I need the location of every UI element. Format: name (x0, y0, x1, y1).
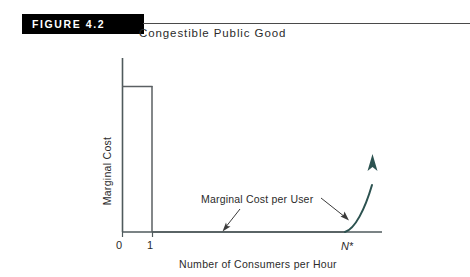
figure-header: FIGURE 4.2 Congestible Public Good (0, 0, 470, 46)
header-divider-rule (143, 23, 470, 24)
marginal-cost-per-user-label: Marginal Cost per User (201, 193, 314, 205)
x-tick-label-nstar: N* (341, 240, 354, 252)
x-tick-label-1: 1 (147, 239, 153, 251)
chart-plot-area: 0 1 N* Marginal Cost per User Marginal C… (0, 46, 470, 277)
figure-title: Congestible Public Good (139, 27, 286, 39)
congestible-public-good-chart: 0 1 N* Marginal Cost per User Marginal C… (0, 46, 470, 277)
leader-arrowhead-right (341, 212, 350, 221)
y-axis-title: Marginal Cost (101, 137, 113, 206)
leader-arrowhead-left (223, 223, 231, 232)
leader-line-left (225, 209, 240, 228)
congestion-curve (345, 185, 372, 232)
x-tick-label-0: 0 (116, 239, 122, 251)
x-axis-title: Number of Consumers per Hour (179, 258, 337, 270)
leader-line-right (321, 198, 345, 217)
congestion-curve-arrowhead (368, 154, 378, 171)
figure-number-badge: FIGURE 4.2 (22, 14, 144, 34)
